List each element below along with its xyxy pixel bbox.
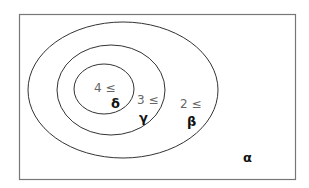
delta-threshold-label: 4 ≤ (94, 81, 116, 95)
delta-symbol: δ (111, 96, 120, 111)
beta-threshold-label: 2 ≤ (180, 97, 202, 111)
gamma-symbol: γ (139, 110, 148, 125)
gamma-threshold-label: 3 ≤ (137, 93, 159, 107)
alpha-symbol: α (243, 150, 252, 165)
beta-symbol: β (187, 114, 196, 129)
nested-set-diagram: 4 ≤ δ 3 ≤ γ 2 ≤ β α (0, 0, 309, 188)
